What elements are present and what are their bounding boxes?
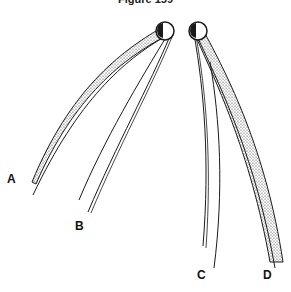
left-socket-group xyxy=(32,22,174,213)
bristle-c2 xyxy=(196,36,208,248)
label-b: B xyxy=(75,219,84,233)
label-c: C xyxy=(197,268,206,282)
bristle-b2 xyxy=(88,36,170,212)
label-a: A xyxy=(7,172,16,186)
bristle-c1 xyxy=(194,34,206,246)
right-socket-group xyxy=(189,22,283,268)
bristle-c3 xyxy=(210,62,220,268)
bristle-illustration xyxy=(0,0,291,292)
label-d: D xyxy=(263,268,272,282)
bristle-a xyxy=(32,28,166,184)
bristle-b3 xyxy=(91,37,172,213)
